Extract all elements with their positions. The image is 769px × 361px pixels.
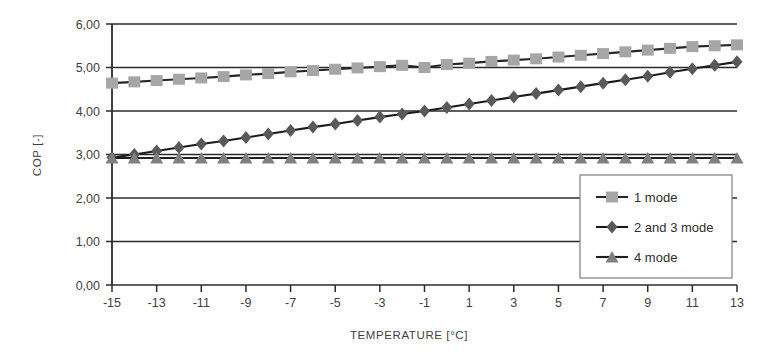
x-tick-label: -3 (374, 296, 385, 310)
series-marker (731, 39, 743, 50)
y-axis-title: COP [-] (31, 134, 43, 176)
series-marker (173, 74, 185, 85)
y-tick-label: 4,00 (76, 105, 100, 119)
series-marker (285, 66, 297, 77)
series-marker (218, 71, 230, 82)
series-marker (575, 50, 587, 61)
series-marker (151, 75, 163, 86)
x-axis-title: TEMPERATURE [°C] (350, 329, 468, 341)
x-tick-label: 11 (686, 296, 699, 310)
series-marker (329, 64, 341, 75)
x-tick-label: -7 (285, 296, 296, 310)
series-4-mode (106, 152, 744, 164)
x-tick-label: -1 (419, 296, 430, 310)
series-marker (419, 105, 430, 118)
x-tick-label: -5 (330, 296, 341, 310)
series-marker (464, 98, 475, 111)
series-marker (642, 70, 653, 83)
series-marker (396, 60, 408, 71)
x-tick-label: 1 (466, 296, 473, 310)
series-marker (374, 111, 385, 124)
series-marker (686, 41, 698, 52)
y-tick-label: 3,00 (76, 148, 100, 162)
series-marker (463, 58, 475, 69)
series-marker (240, 69, 252, 80)
series-marker (240, 131, 251, 144)
series-marker (664, 43, 676, 54)
x-tick-label: -11 (193, 296, 210, 310)
series-marker (598, 77, 609, 90)
series-marker (263, 128, 274, 141)
series-marker (441, 59, 453, 70)
series-marker (597, 48, 609, 59)
series-marker (709, 40, 721, 51)
chart-canvas: 0,001,002,003,004,005,006,00 -15-13-11-9… (0, 0, 769, 361)
series-marker (508, 55, 520, 66)
series-marker (485, 56, 497, 67)
x-axis-tick-labels: -15-13-11-9-7-5-3-1135791113 (103, 296, 744, 310)
series-marker (575, 80, 586, 93)
series-marker (553, 84, 564, 97)
series-marker (374, 61, 386, 72)
series-marker (330, 118, 341, 131)
legend-label: 4 mode (634, 250, 677, 265)
x-axis-ticks (112, 285, 737, 292)
series-marker (307, 121, 318, 134)
legend-label: 1 mode (634, 190, 677, 205)
x-tick-label: -15 (103, 296, 121, 310)
series-marker (307, 65, 319, 76)
series-marker (262, 68, 274, 79)
legend-item-1-mode: 1 mode (596, 190, 677, 205)
series-marker (687, 62, 698, 75)
series-marker (508, 91, 519, 104)
series-marker (419, 62, 431, 73)
series-marker (620, 73, 631, 86)
cop-temperature-chart: 0,001,002,003,004,005,006,00 -15-13-11-9… (0, 0, 769, 361)
series-marker (285, 124, 296, 137)
series-marker (486, 94, 497, 107)
chart-legend: 1 mode2 and 3 mode4 mode (580, 175, 732, 278)
y-tick-label: 6,00 (76, 18, 100, 32)
x-tick-label: 9 (644, 296, 651, 310)
series-marker (441, 101, 452, 114)
x-tick-label: 13 (730, 296, 744, 310)
x-tick-label: -13 (148, 296, 166, 310)
series-marker (195, 72, 207, 83)
series-marker (709, 59, 720, 72)
series-marker (128, 76, 140, 87)
x-tick-label: -9 (240, 296, 251, 310)
series-marker (397, 108, 408, 121)
series-marker (552, 52, 564, 63)
series-marker (218, 135, 229, 148)
series-marker (642, 45, 654, 56)
data-series-group (106, 39, 744, 164)
x-tick-label: 3 (510, 296, 517, 310)
series-marker (352, 114, 363, 127)
y-tick-label: 1,00 (76, 235, 100, 249)
x-tick-label: 7 (600, 296, 607, 310)
y-tick-label: 5,00 (76, 61, 100, 75)
series-marker (619, 46, 631, 57)
legend-label: 2 and 3 mode (634, 220, 714, 235)
series-marker (732, 55, 743, 68)
y-axis-tick-labels: 0,001,002,003,004,005,006,00 (76, 18, 100, 293)
series-marker (196, 138, 207, 151)
y-tick-label: 0,00 (76, 279, 100, 293)
y-tick-label: 2,00 (76, 192, 100, 206)
series-marker (352, 62, 364, 73)
legend-marker-swatch (606, 192, 618, 203)
x-tick-label: 5 (555, 296, 562, 310)
series-marker (531, 87, 542, 100)
series-marker (106, 78, 118, 89)
series-marker (530, 53, 542, 64)
